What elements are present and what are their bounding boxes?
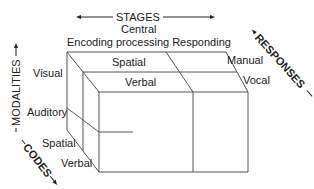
stage-central-label: Central [121, 23, 156, 35]
response-manual-label: Manual [227, 54, 263, 66]
top-face-spatial-label: Spatial [112, 56, 146, 68]
response-vocal-label: Vocal [243, 74, 270, 86]
stages-label: STAGES [116, 11, 160, 23]
modalities-label: MODALITIES [10, 59, 22, 126]
stages-axis: STAGES Central Encoding processing Respo… [67, 11, 231, 48]
cube [67, 52, 248, 172]
arrow-right-icon [210, 15, 215, 19]
modality-visual-label: Visual [33, 67, 63, 79]
responses-arrow-line [307, 90, 312, 96]
stage-levels-label: Encoding processing Responding [67, 36, 231, 48]
arrow-left-icon [76, 15, 81, 19]
code-spatial-label: Spatial [42, 137, 76, 149]
codes-arrow-tail [22, 140, 25, 144]
modality-auditory-label: Auditory [27, 106, 68, 118]
code-verbal-label: Verbal [61, 157, 92, 169]
top-face-verbal-label: Verbal [125, 76, 156, 88]
arrow-up-left-icon [250, 28, 256, 34]
modalities-axis: MODALITIES [10, 43, 22, 132]
arrow-up-icon [14, 43, 18, 48]
multiple-resource-diagram: STAGES Central Encoding processing Respo… [0, 0, 314, 189]
